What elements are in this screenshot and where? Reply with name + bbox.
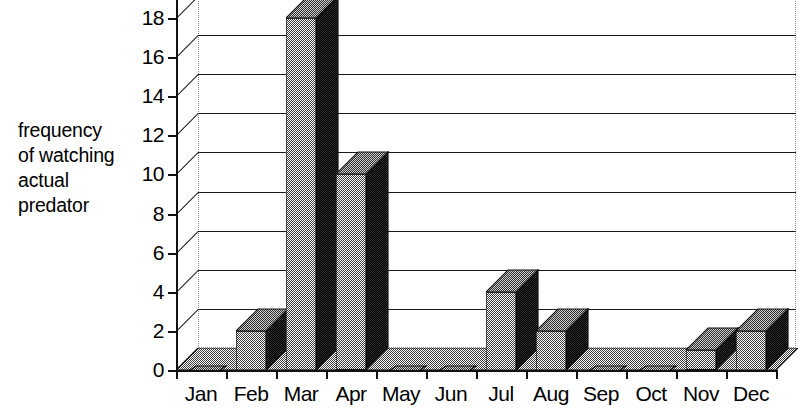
x-axis-tick bbox=[226, 370, 228, 379]
gridline-depth-connector bbox=[176, 153, 199, 176]
bar-jul[interactable] bbox=[486, 269, 540, 371]
x-axis-tick bbox=[526, 370, 528, 379]
y-axis-tick bbox=[168, 292, 177, 294]
x-axis-tick bbox=[276, 370, 278, 379]
y-axis-tick-label: 4 bbox=[124, 281, 164, 302]
bar-feb[interactable] bbox=[236, 308, 290, 371]
x-axis-tick bbox=[676, 370, 678, 379]
gridline-depth-connector bbox=[176, 0, 199, 19]
y-axis-tick-label: 2 bbox=[124, 320, 164, 341]
y-axis-tick-label: 14 bbox=[124, 85, 164, 106]
gridline-depth-connector bbox=[176, 35, 199, 58]
x-axis-tick bbox=[576, 370, 578, 379]
gridline-depth-connector bbox=[176, 74, 199, 97]
plot-area: 024681012141618 bbox=[0, 0, 809, 419]
bar-oct[interactable] bbox=[636, 347, 690, 371]
bar-dec[interactable] bbox=[736, 308, 790, 371]
gridline-depth-connector bbox=[176, 192, 199, 215]
y-axis-tick bbox=[168, 57, 177, 59]
y-axis-tick bbox=[168, 174, 177, 176]
x-axis-tick bbox=[626, 370, 628, 379]
bar-aug[interactable] bbox=[536, 308, 590, 371]
x-axis-tick bbox=[426, 370, 428, 379]
bar-jun[interactable] bbox=[436, 347, 490, 371]
y-axis-tick-label: 6 bbox=[124, 242, 164, 263]
gridline-depth-connector bbox=[176, 309, 199, 332]
y-axis-tick bbox=[168, 253, 177, 255]
y-axis-tick bbox=[168, 96, 177, 98]
x-axis-label-dec: Dec bbox=[719, 382, 783, 406]
x-axis-tick bbox=[326, 370, 328, 379]
y-axis-tick-label: 12 bbox=[124, 124, 164, 145]
gridline-depth-connector bbox=[176, 231, 199, 254]
x-axis-tick bbox=[376, 370, 378, 379]
y-axis-tick bbox=[168, 135, 177, 137]
y-axis-tick-label: 8 bbox=[124, 203, 164, 224]
y-axis-tick-label: 16 bbox=[124, 46, 164, 67]
x-axis-tick bbox=[726, 370, 728, 379]
x-axis-tick bbox=[776, 370, 778, 379]
bar-sep[interactable] bbox=[586, 347, 640, 371]
y-axis-tick bbox=[168, 18, 177, 20]
bar-jan[interactable] bbox=[186, 347, 240, 371]
bar-mar[interactable] bbox=[286, 0, 340, 371]
gridline-depth-connector bbox=[176, 270, 199, 293]
bar-apr[interactable] bbox=[336, 151, 390, 371]
x-axis-tick bbox=[476, 370, 478, 379]
y-axis-line bbox=[176, 0, 178, 370]
y-axis-tick bbox=[168, 214, 177, 216]
gridline-depth-connector bbox=[176, 113, 199, 136]
y-axis-tick-label: 0 bbox=[124, 359, 164, 380]
bar-may[interactable] bbox=[386, 347, 440, 371]
y-axis-tick-label: 10 bbox=[124, 163, 164, 184]
x-axis-tick bbox=[176, 370, 178, 379]
bar-nov[interactable] bbox=[686, 327, 740, 371]
bar-chart: frequency of watching actual predator 02… bbox=[0, 0, 809, 419]
y-axis-tick bbox=[168, 331, 177, 333]
y-axis-tick-label: 18 bbox=[124, 7, 164, 28]
